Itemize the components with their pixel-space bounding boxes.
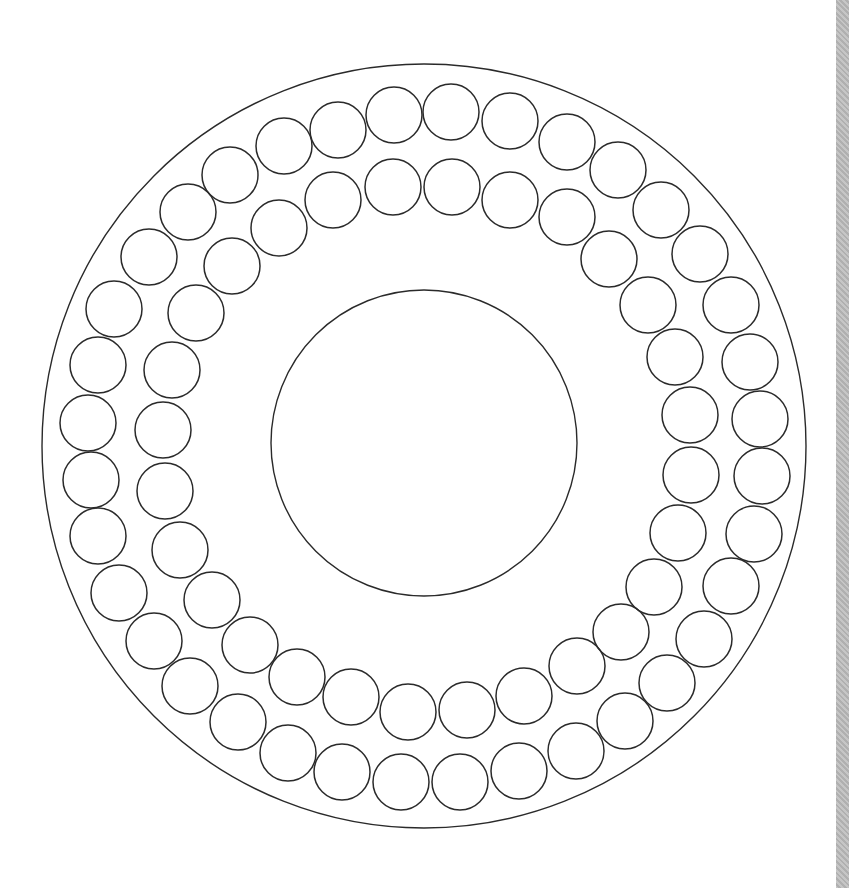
outer-row-circle: [639, 655, 695, 711]
inner-row-circle: [305, 172, 361, 228]
inner-row-circle: [365, 159, 421, 215]
inner-row-circle: [204, 238, 260, 294]
inner-row-circle: [663, 447, 719, 503]
inner-row-circle: [439, 682, 495, 738]
center-circle: [271, 290, 577, 596]
outer-row-circle: [726, 506, 782, 562]
outer-row-circle: [70, 337, 126, 393]
inner-row-circle: [424, 159, 480, 215]
inner-row-circle: [380, 684, 436, 740]
ring-diagram: [0, 0, 849, 888]
inner-row-circle: [144, 342, 200, 398]
outer-ring: [42, 64, 806, 828]
outer-row-circle: [60, 395, 116, 451]
outer-row-circle: [91, 565, 147, 621]
outer-row-circle: [672, 226, 728, 282]
outer-row-circle: [703, 277, 759, 333]
inner-row-circle: [581, 231, 637, 287]
outer-row-circle: [256, 118, 312, 174]
outer-row-circle: [126, 613, 182, 669]
outer-row-circle: [432, 754, 488, 810]
outer-row-circle: [202, 147, 258, 203]
inner-row-circle: [650, 505, 706, 561]
outer-row-circle: [310, 102, 366, 158]
outer-row-circle: [633, 182, 689, 238]
inner-row-circle: [152, 522, 208, 578]
outer-row-circle: [703, 558, 759, 614]
outer-row-circle: [63, 452, 119, 508]
inner-row-circle: [135, 402, 191, 458]
outer-row-circle: [210, 694, 266, 750]
inner-row-circle: [647, 329, 703, 385]
outer-row-circle: [539, 114, 595, 170]
outer-row-circle: [722, 334, 778, 390]
inner-row-circle: [251, 200, 307, 256]
outer-row-circle: [590, 142, 646, 198]
inner-row-circle: [323, 669, 379, 725]
inner-row-circle: [168, 285, 224, 341]
inner-row-circle: [184, 572, 240, 628]
page-edge-strip: [836, 0, 849, 888]
inner-row-circle: [549, 638, 605, 694]
outer-row-circle: [162, 658, 218, 714]
inner-row-circle: [482, 172, 538, 228]
outer-row-circle: [121, 229, 177, 285]
outer-row-circle: [373, 754, 429, 810]
outer-row-circle: [314, 744, 370, 800]
outer-row-circle: [548, 723, 604, 779]
inner-row-circle: [269, 649, 325, 705]
inner-row-circle: [662, 387, 718, 443]
inner-row-circle: [496, 668, 552, 724]
outer-row-circle: [86, 281, 142, 337]
outer-row-circle: [734, 448, 790, 504]
outer-row-circle: [366, 87, 422, 143]
outer-row-circle: [423, 84, 479, 140]
outer-row-circle: [732, 391, 788, 447]
inner-row-circle: [137, 463, 193, 519]
outer-row-circle: [482, 93, 538, 149]
outer-row-circle: [70, 508, 126, 564]
outer-row-circle: [260, 725, 316, 781]
inner-row-circle: [620, 277, 676, 333]
inner-row-circle: [539, 189, 595, 245]
inner-row-of-circles: [135, 159, 719, 740]
outer-row-circle: [491, 743, 547, 799]
outer-row-circle: [676, 611, 732, 667]
outer-row-circle: [597, 693, 653, 749]
inner-row-circle: [222, 617, 278, 673]
